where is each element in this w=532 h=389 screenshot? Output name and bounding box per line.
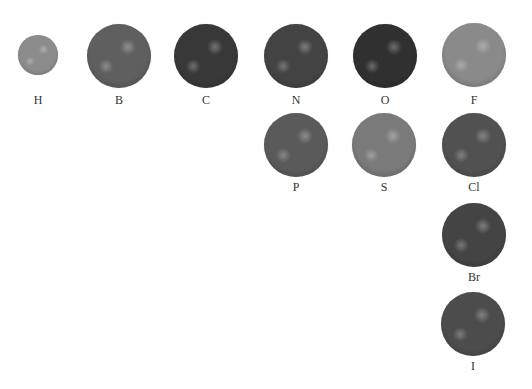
atom-label: B: [99, 93, 139, 107]
atom-label: I: [453, 359, 493, 373]
atom-label: O: [365, 93, 405, 107]
sphere-icon: [353, 24, 417, 88]
atom-label: H: [18, 93, 58, 107]
atom-label: P: [276, 180, 316, 194]
sphere-icon: [442, 23, 506, 87]
sphere-icon: [87, 24, 151, 88]
sphere-icon: [18, 35, 58, 75]
atom-label: Br: [454, 270, 494, 284]
sphere-icon: [441, 292, 505, 356]
atom-label: C: [186, 93, 226, 107]
sphere-icon: [352, 113, 416, 177]
sphere-icon: [264, 113, 328, 177]
atom-label: F: [454, 93, 494, 107]
atom-label: Cl: [454, 180, 494, 194]
atom-label: S: [364, 180, 404, 194]
sphere-icon: [442, 113, 506, 177]
atom-label: N: [276, 93, 316, 107]
sphere-icon: [442, 203, 506, 267]
sphere-icon: [264, 24, 328, 88]
sphere-icon: [174, 24, 238, 88]
